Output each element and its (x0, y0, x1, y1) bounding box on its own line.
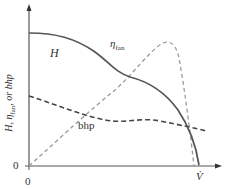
plot-area (0, 0, 225, 189)
eta-fan-label: ηfan (110, 38, 124, 52)
y-axis-arrow-icon (27, 4, 32, 11)
y-zero-label: 0 (13, 160, 19, 171)
h-curve-label: H (50, 47, 59, 59)
y-axis-label-main: H, η (3, 115, 14, 132)
x-axis-arrow-icon (215, 164, 222, 169)
x-axis-label: V̇ (196, 171, 203, 182)
fan-performance-chart: H ηfan bhp 0 0 V̇ H, ηfan, or bhp (0, 0, 225, 189)
y-axis-label-tail: , or bhp (3, 74, 14, 105)
y-axis-label-sub: fan (9, 106, 17, 115)
bhp-curve-label: bhp (78, 120, 95, 131)
eta-subscript: fan (115, 44, 124, 52)
y-axis-label: H, ηfan, or bhp (3, 55, 17, 151)
x-zero-label: 0 (25, 176, 31, 187)
